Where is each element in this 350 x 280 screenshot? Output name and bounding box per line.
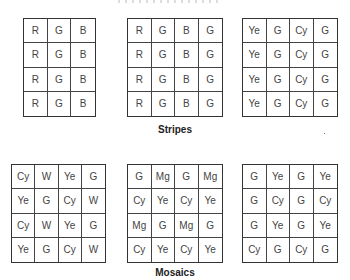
filter-cell: R bbox=[24, 43, 48, 67]
filter-cell: W bbox=[82, 189, 105, 213]
filter-cell: G bbox=[175, 165, 199, 189]
filter-cell: Ye bbox=[243, 92, 267, 116]
filter-cell: Cy bbox=[12, 214, 35, 238]
filter-cell: G bbox=[290, 189, 314, 213]
filter-cell: Cy bbox=[290, 238, 314, 262]
filter-cell: Ye bbox=[243, 68, 267, 92]
filter-cell: G bbox=[267, 92, 291, 116]
filter-cell: Cy bbox=[59, 189, 82, 213]
filter-cell: G bbox=[82, 165, 105, 189]
filter-cell: W bbox=[82, 238, 105, 262]
filter-cell: Ye bbox=[314, 214, 338, 238]
filter-cell: G bbox=[199, 214, 223, 238]
filter-cell: Ye bbox=[243, 43, 267, 67]
filter-cell: B bbox=[71, 43, 95, 67]
filter-cell: G bbox=[267, 43, 291, 67]
filter-cell: Ye bbox=[12, 238, 35, 262]
filter-cell: G bbox=[314, 92, 338, 116]
filter-cell: B bbox=[71, 19, 95, 43]
filter-cell: Cy bbox=[243, 238, 267, 262]
filter-cell: Cy bbox=[175, 189, 199, 213]
filter-cell: G bbox=[35, 189, 58, 213]
filter-cell: B bbox=[175, 43, 199, 67]
filter-cell: B bbox=[175, 19, 199, 43]
stripes-label: Stripes bbox=[125, 124, 225, 135]
filter-cell: G bbox=[314, 238, 338, 262]
filter-cell: R bbox=[128, 19, 152, 43]
stray-dot bbox=[324, 133, 325, 134]
filter-cell: Cy bbox=[290, 19, 314, 43]
filter-cell: G bbox=[152, 43, 176, 67]
filter-cell: Cy bbox=[59, 238, 82, 262]
filter-cell: G bbox=[199, 92, 223, 116]
filter-cell: B bbox=[175, 68, 199, 92]
filter-cell: R bbox=[128, 92, 152, 116]
filter-cell: Ye bbox=[59, 165, 82, 189]
filter-cell: G bbox=[48, 68, 72, 92]
filter-cell: Ye bbox=[267, 165, 291, 189]
filter-cell: Ye bbox=[243, 19, 267, 43]
filter-cell: G bbox=[243, 165, 267, 189]
filter-cell: B bbox=[71, 68, 95, 92]
filter-cell: G bbox=[152, 214, 176, 238]
rgb-stripe-grid: RGBRGBRGBRGB bbox=[23, 18, 96, 117]
filter-cell: B bbox=[175, 92, 199, 116]
filter-cell: Ye bbox=[152, 238, 176, 262]
filter-cell: Cy bbox=[12, 165, 35, 189]
filter-cell: G bbox=[290, 165, 314, 189]
filter-cell: Cy bbox=[128, 238, 152, 262]
filter-cell: Ye bbox=[152, 189, 176, 213]
filter-cell: G bbox=[267, 238, 291, 262]
filter-cell: Cy bbox=[290, 92, 314, 116]
filter-cell: G bbox=[152, 19, 176, 43]
filter-cell: R bbox=[24, 68, 48, 92]
filter-cell: Ye bbox=[59, 214, 82, 238]
filter-cell: Ye bbox=[12, 189, 35, 213]
filter-cell: R bbox=[128, 68, 152, 92]
filter-cell: Cy bbox=[290, 68, 314, 92]
filter-cell: G bbox=[290, 214, 314, 238]
filter-cell: Mg bbox=[152, 165, 176, 189]
cywyeg-mosaic-grid: CyWYeGYeGCyWCyWYeGYeGCyW bbox=[11, 164, 106, 263]
filter-cell: Cy bbox=[290, 43, 314, 67]
gyecy-mosaic-grid: GYeGYeGCyGCyGYeGYeCyGCyG bbox=[242, 164, 338, 263]
filter-cell: G bbox=[35, 238, 58, 262]
filter-cell: W bbox=[35, 214, 58, 238]
filter-cell: G bbox=[152, 68, 176, 92]
filter-cell: Ye bbox=[199, 238, 223, 262]
filter-cell: Mg bbox=[199, 165, 223, 189]
filter-cell: Ye bbox=[267, 214, 291, 238]
filter-cell: G bbox=[314, 43, 338, 67]
yegcyg-stripe-grid: YeGCyGYeGCyGYeGCyGYeGCyG bbox=[242, 18, 338, 117]
filter-cell: Cy bbox=[128, 189, 152, 213]
filter-cell: Mg bbox=[175, 214, 199, 238]
filter-cell: G bbox=[48, 43, 72, 67]
rgbg-stripe-grid: RGBGRGBGRGBGRGBG bbox=[127, 18, 223, 117]
filter-cell: Mg bbox=[128, 214, 152, 238]
filter-cell: Cy bbox=[175, 238, 199, 262]
filter-cell: R bbox=[128, 43, 152, 67]
filter-cell: B bbox=[71, 92, 95, 116]
filter-cell: Ye bbox=[314, 165, 338, 189]
filter-cell: G bbox=[128, 165, 152, 189]
filter-cell: G bbox=[243, 189, 267, 213]
filter-cell: G bbox=[243, 214, 267, 238]
filter-cell: G bbox=[199, 43, 223, 67]
filter-cell: Ye bbox=[199, 189, 223, 213]
filter-cell: Cy bbox=[314, 189, 338, 213]
gmgcyye-mosaic-grid: GMgGMgCyYeCyYeMgGMgGCyYeCyYe bbox=[127, 164, 223, 263]
filter-cell: G bbox=[152, 92, 176, 116]
filter-cell: W bbox=[35, 165, 58, 189]
filter-cell: Cy bbox=[267, 189, 291, 213]
filter-cell: G bbox=[267, 19, 291, 43]
cropped-caption-remnant bbox=[118, 0, 218, 3]
filter-cell: G bbox=[82, 214, 105, 238]
filter-cell: G bbox=[48, 92, 72, 116]
filter-cell: G bbox=[199, 19, 223, 43]
filter-cell: G bbox=[199, 68, 223, 92]
filter-cell: G bbox=[267, 68, 291, 92]
filter-cell: R bbox=[24, 19, 48, 43]
filter-cell: G bbox=[314, 68, 338, 92]
filter-cell: G bbox=[314, 19, 338, 43]
mosaics-label: Mosaics bbox=[125, 267, 225, 278]
